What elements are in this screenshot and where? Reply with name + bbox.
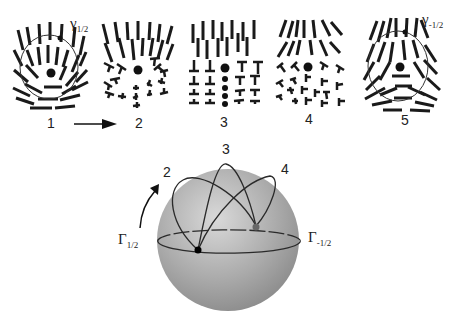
- panel-label-4: 4: [305, 111, 313, 127]
- panel-label-5: 5: [401, 112, 409, 128]
- order-parameter-sphere: [157, 164, 300, 311]
- gamma-minus-half-sphere-label: Γ-1/2: [308, 229, 331, 248]
- panel-2-defect-core: [134, 66, 143, 75]
- panel-4-director-field: [278, 20, 342, 57]
- panel-1-defect-core: [47, 69, 56, 78]
- panel-2-director-field: [103, 21, 173, 62]
- panel-label-1: 1: [47, 115, 55, 131]
- defect-transformation-figure: γ1/2: [0, 0, 461, 322]
- gamma-half-sphere-label: Γ1/2: [118, 231, 138, 250]
- sphere-label-3: 3: [222, 141, 230, 157]
- gamma-half-label: γ1/2: [69, 15, 88, 34]
- transition-arrow-icon: [74, 119, 117, 129]
- sphere-label-2: 2: [163, 164, 171, 180]
- front-point: [195, 247, 202, 254]
- panel-2-biaxial-tees: [104, 58, 168, 108]
- panel-label-3: 3: [220, 114, 228, 130]
- panel-3-defect-line: [221, 64, 230, 108]
- back-point: [253, 224, 260, 231]
- panel-5-defect-core: [396, 63, 405, 72]
- panel-4-defect-core: [304, 63, 313, 72]
- panel-label-2: 2: [135, 115, 143, 131]
- rotation-arrow-icon: [140, 184, 159, 228]
- panel-3-director-field: [193, 20, 254, 59]
- sphere-label-4: 4: [281, 161, 289, 177]
